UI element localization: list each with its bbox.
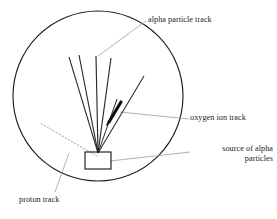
proton-track-line: [40, 123, 97, 156]
leader-line-source-of-alpha-particles: [110, 152, 190, 161]
leader-line-proton-track: [55, 153, 69, 192]
leader-line-oxygen-ion-track: [120, 112, 189, 119]
source-box: [85, 152, 111, 169]
label-source-line-2: particles: [245, 154, 273, 163]
diagram-canvas: [0, 0, 277, 219]
cloud-chamber-diagram: alpha particle track oxygen ion track so…: [0, 0, 277, 219]
label-source-line-1: source of alpha: [222, 144, 273, 153]
alpha-track: [98, 76, 144, 153]
alpha-particle-tracks: [69, 55, 144, 153]
label-oxygen-ion-track: oxygen ion track: [190, 113, 246, 123]
label-source-of-alpha-particles: source of alphaparticles: [193, 144, 273, 164]
label-proton-track: proton track: [19, 195, 59, 205]
alpha-track: [79, 55, 98, 153]
alpha-track: [96, 56, 98, 153]
leader-line-alpha-particle-track: [98, 21, 146, 56]
alpha-track: [69, 57, 98, 153]
alpha-track: [98, 58, 111, 153]
label-alpha-particle-track: alpha particle track: [148, 15, 212, 25]
